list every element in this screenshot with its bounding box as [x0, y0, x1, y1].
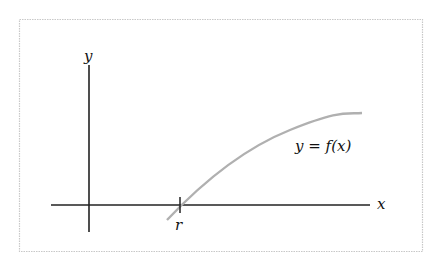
frame-border [20, 20, 423, 252]
function-curve [167, 113, 362, 220]
function-root-diagram: y x r y = f(x) [0, 0, 432, 269]
y-axis-label: y [83, 47, 93, 65]
curve-label: y = f(x) [294, 137, 351, 155]
root-label: r [175, 216, 183, 234]
x-axis-label: x [377, 195, 386, 213]
